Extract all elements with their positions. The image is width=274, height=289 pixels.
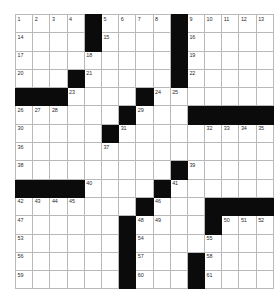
letter-square[interactable] (239, 234, 256, 252)
letter-square[interactable] (170, 271, 187, 289)
letter-square[interactable] (222, 51, 239, 69)
letter-square[interactable] (170, 124, 187, 142)
letter-square[interactable] (153, 271, 170, 289)
letter-square[interactable] (256, 234, 273, 252)
letter-square[interactable] (170, 234, 187, 252)
letter-square[interactable] (256, 161, 273, 179)
letter-square[interactable] (50, 51, 67, 69)
letter-square[interactable] (50, 124, 67, 142)
letter-square[interactable] (153, 124, 170, 142)
letter-square[interactable] (84, 143, 101, 161)
letter-square[interactable] (239, 51, 256, 69)
letter-square[interactable]: 57 (136, 252, 153, 270)
letter-square[interactable] (153, 69, 170, 87)
letter-square[interactable] (84, 106, 101, 124)
letter-square[interactable]: 51 (239, 216, 256, 234)
letter-square[interactable]: 24 (153, 88, 170, 106)
letter-square[interactable] (33, 161, 50, 179)
letter-square[interactable] (33, 51, 50, 69)
letter-square[interactable] (67, 106, 84, 124)
letter-square[interactable] (170, 197, 187, 215)
letter-square[interactable]: 39 (187, 161, 204, 179)
letter-square[interactable] (50, 234, 67, 252)
letter-square[interactable]: 27 (33, 106, 50, 124)
letter-square[interactable] (187, 197, 204, 215)
letter-square[interactable] (239, 161, 256, 179)
letter-square[interactable] (205, 33, 222, 51)
letter-square[interactable]: 23 (67, 88, 84, 106)
letter-square[interactable] (222, 33, 239, 51)
letter-square[interactable] (222, 234, 239, 252)
letter-square[interactable] (119, 161, 136, 179)
letter-square[interactable] (101, 252, 118, 270)
letter-square[interactable] (205, 161, 222, 179)
letter-square[interactable] (222, 271, 239, 289)
letter-square[interactable]: 50 (222, 216, 239, 234)
letter-square[interactable] (50, 271, 67, 289)
letter-square[interactable]: 9 (187, 15, 204, 33)
letter-square[interactable] (256, 33, 273, 51)
letter-square[interactable]: 32 (205, 124, 222, 142)
letter-square[interactable] (256, 143, 273, 161)
letter-square[interactable] (239, 88, 256, 106)
crossword-grid[interactable]: 1234567891011121314151617181920212223242… (15, 14, 274, 289)
letter-square[interactable] (67, 124, 84, 142)
letter-square[interactable]: 61 (205, 271, 222, 289)
letter-square[interactable] (50, 252, 67, 270)
letter-square[interactable]: 16 (187, 33, 204, 51)
letter-square[interactable]: 15 (101, 33, 118, 51)
letter-square[interactable] (119, 88, 136, 106)
letter-square[interactable] (50, 216, 67, 234)
letter-square[interactable]: 14 (16, 33, 33, 51)
letter-square[interactable] (101, 106, 118, 124)
letter-square[interactable] (170, 216, 187, 234)
letter-square[interactable] (170, 143, 187, 161)
letter-square[interactable] (84, 197, 101, 215)
letter-square[interactable]: 43 (33, 197, 50, 215)
letter-square[interactable]: 38 (16, 161, 33, 179)
letter-square[interactable] (67, 252, 84, 270)
letter-square[interactable] (205, 88, 222, 106)
letter-square[interactable] (256, 88, 273, 106)
letter-square[interactable]: 12 (239, 15, 256, 33)
letter-square[interactable] (222, 161, 239, 179)
letter-square[interactable] (256, 252, 273, 270)
letter-square[interactable] (136, 161, 153, 179)
letter-square[interactable] (119, 51, 136, 69)
letter-square[interactable] (239, 179, 256, 197)
letter-square[interactable] (136, 51, 153, 69)
letter-square[interactable] (33, 143, 50, 161)
letter-square[interactable]: 60 (136, 271, 153, 289)
letter-square[interactable] (67, 33, 84, 51)
letter-square[interactable] (136, 69, 153, 87)
letter-square[interactable] (101, 271, 118, 289)
letter-square[interactable]: 45 (67, 197, 84, 215)
letter-square[interactable] (33, 271, 50, 289)
letter-square[interactable] (170, 106, 187, 124)
letter-square[interactable] (153, 106, 170, 124)
letter-square[interactable]: 34 (239, 124, 256, 142)
letter-square[interactable] (84, 216, 101, 234)
letter-square[interactable]: 8 (153, 15, 170, 33)
letter-square[interactable] (256, 179, 273, 197)
letter-square[interactable]: 1 (16, 15, 33, 33)
letter-square[interactable]: 21 (84, 69, 101, 87)
letter-square[interactable]: 33 (222, 124, 239, 142)
letter-square[interactable] (101, 179, 118, 197)
letter-square[interactable] (119, 69, 136, 87)
letter-square[interactable]: 36 (16, 143, 33, 161)
letter-square[interactable] (33, 234, 50, 252)
letter-square[interactable]: 6 (119, 15, 136, 33)
letter-square[interactable] (205, 51, 222, 69)
letter-square[interactable] (222, 179, 239, 197)
letter-square[interactable] (153, 143, 170, 161)
letter-square[interactable]: 22 (187, 69, 204, 87)
letter-square[interactable] (222, 143, 239, 161)
letter-square[interactable] (239, 271, 256, 289)
letter-square[interactable] (67, 234, 84, 252)
letter-square[interactable] (84, 124, 101, 142)
letter-square[interactable]: 13 (256, 15, 273, 33)
letter-square[interactable]: 2 (33, 15, 50, 33)
letter-square[interactable]: 47 (16, 216, 33, 234)
letter-square[interactable]: 19 (187, 51, 204, 69)
